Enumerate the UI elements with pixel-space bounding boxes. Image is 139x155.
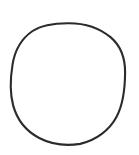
circle-drawing bbox=[0, 0, 139, 155]
image-canvas bbox=[0, 0, 139, 155]
